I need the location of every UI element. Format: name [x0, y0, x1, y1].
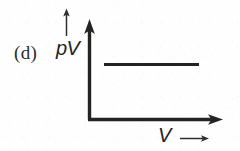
part-label: (d)	[14, 42, 37, 64]
x-axis-label: V	[158, 124, 171, 147]
y-axis-label: pV	[56, 37, 79, 60]
figure-panel-d: (d) pV V	[0, 0, 240, 151]
graph-canvas	[0, 0, 240, 151]
